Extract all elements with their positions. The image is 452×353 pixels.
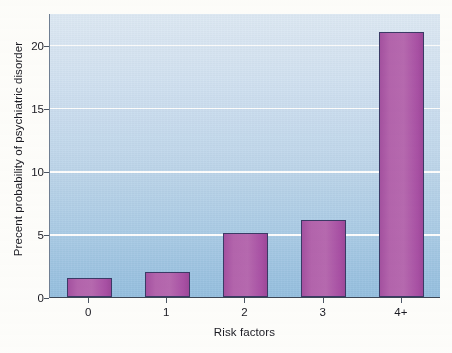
bar[interactable]	[67, 278, 112, 297]
x-tick-mark	[401, 298, 402, 303]
x-tick-label: 0	[49, 306, 127, 319]
y-tick-label: 5	[22, 230, 44, 240]
x-tick-mark	[323, 298, 324, 303]
bar-chart-figure: Precent probability of psychiatric disor…	[0, 0, 452, 353]
x-tick-label: 1	[127, 306, 205, 319]
y-axis-tick-group: 05101520	[18, 14, 44, 298]
x-tick-label: 2	[205, 306, 283, 319]
y-tick-label: 15	[22, 104, 44, 114]
bar-slot	[206, 14, 284, 297]
y-tick-label: 20	[22, 41, 44, 51]
bar[interactable]	[379, 32, 424, 297]
bar[interactable]	[145, 272, 190, 297]
plot-area	[49, 14, 440, 298]
x-tick-mark	[166, 298, 167, 303]
y-tick-label: 10	[22, 167, 44, 177]
bar-slot	[128, 14, 206, 297]
y-tick-label: 0	[22, 293, 44, 303]
bar-slot	[362, 14, 440, 297]
bar-group	[50, 14, 440, 297]
bar-slot	[284, 14, 362, 297]
x-tick-label: 4+	[362, 306, 440, 319]
bar-slot	[50, 14, 128, 297]
x-axis-title: Risk factors	[49, 326, 440, 338]
x-tick-label: 3	[284, 306, 362, 319]
x-axis-tick-group: 01234+	[49, 298, 440, 328]
x-tick-mark	[88, 298, 89, 303]
bar[interactable]	[301, 220, 346, 297]
x-tick-mark	[244, 298, 245, 303]
bar[interactable]	[223, 233, 268, 297]
